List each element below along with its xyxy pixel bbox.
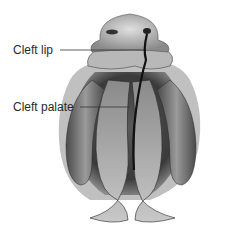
anatomy-illustration [0,0,239,234]
left-nostril [106,30,118,35]
cleft-lip-label: Cleft lip [13,43,53,57]
cleft-palate-label: Cleft palate [13,100,74,114]
nose [91,14,169,52]
right-nostril [143,28,151,34]
